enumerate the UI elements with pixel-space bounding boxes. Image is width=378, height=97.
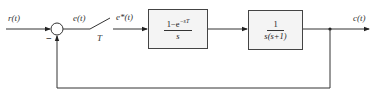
error-label: e(t) xyxy=(73,14,86,23)
plant-block: 1 s(s+1) xyxy=(248,10,303,50)
sampled-error-label: e*(t) xyxy=(116,13,133,22)
summing-junction xyxy=(51,23,63,35)
sampler-switch xyxy=(90,18,110,29)
zoh-numerator-exponent: −sT xyxy=(180,18,190,24)
plant-numerator: 1 xyxy=(267,20,283,31)
zoh-denominator: s xyxy=(176,31,179,41)
output-label: c(t) xyxy=(353,14,366,23)
zoh-numerator-text: 1−e xyxy=(167,19,180,29)
zoh-numerator: 1−e−sT xyxy=(164,17,193,31)
plant-denominator: s(s+1) xyxy=(264,31,286,41)
sampler-period-label: T xyxy=(97,34,102,43)
minus-sign: − xyxy=(46,34,52,44)
zoh-block: 1−e−sT s xyxy=(148,9,208,49)
input-label: r(t) xyxy=(8,14,20,23)
